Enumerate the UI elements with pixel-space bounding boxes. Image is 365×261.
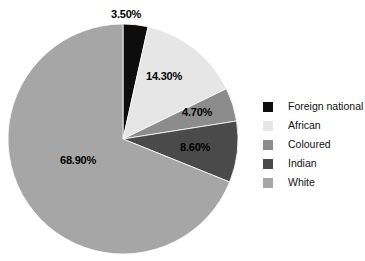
- legend-item-coloured: Coloured: [263, 135, 363, 154]
- legend-item-indian: Indian: [263, 154, 363, 173]
- pie-label-coloured: 4.70%: [182, 106, 212, 118]
- legend-swatch-icon: [263, 121, 273, 131]
- legend-swatch-icon: [263, 102, 273, 112]
- chart-legend: Foreign national African Coloured Indian…: [263, 97, 363, 192]
- legend-swatch-icon: [263, 178, 273, 188]
- legend-item-white: White: [263, 173, 363, 192]
- legend-item-label: Coloured: [288, 139, 331, 150]
- pie-label-indian: 8.60%: [180, 141, 210, 153]
- legend-swatch-icon: [263, 140, 273, 150]
- pie-chart: 3.50% 14.30% 4.70% 8.60% 68.90% Foreign …: [0, 0, 365, 261]
- pie-slices: [8, 24, 238, 254]
- pie-label-foreign-national: 3.50%: [111, 8, 141, 20]
- legend-item-african: African: [263, 116, 363, 135]
- pie-label-african: 14.30%: [146, 70, 182, 82]
- legend-item-label: White: [288, 177, 315, 188]
- pie-label-white: 68.90%: [60, 154, 96, 166]
- legend-item-label: Foreign national: [288, 101, 363, 112]
- legend-swatch-icon: [263, 159, 273, 169]
- legend-item-label: Indian: [288, 158, 317, 169]
- legend-item-foreign-national: Foreign national: [263, 97, 363, 116]
- legend-item-label: African: [288, 120, 321, 131]
